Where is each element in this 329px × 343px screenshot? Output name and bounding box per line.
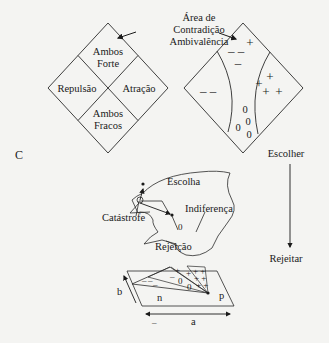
symbol-zero-1: 0 [242,104,247,115]
quadrant-bottom-line1: Ambos [93,108,123,119]
axis-b-label: b [117,286,122,297]
choice-point-dot [141,182,144,185]
region-p-label: p [219,290,224,301]
quadrant-top-line1: Ambos [93,46,123,57]
symbol-right-plus-4: + [275,84,282,99]
panel-label-c: C [15,148,23,162]
quadrant-right-label: Atração [122,83,155,94]
ambivalence-label-line2: Contradição [173,24,224,35]
symbol-right-plus-3: + [262,84,269,99]
label-catastrofe: Catástrofe [102,212,145,223]
symbol-right-plus-1: + [266,69,273,84]
plane-plus-1: + [175,265,180,275]
label-small-zero: 0 [178,222,183,232]
symbol-zero-4: 0 [246,129,251,140]
cusp-catastrophe-surface: Escolha Indiferença Catástrofe Rejeição … [102,171,234,255]
axis-a-label: a [191,316,196,327]
ambivalence-label-line3: Ambivalência [170,36,229,47]
axis-b-arrow [124,276,136,303]
axis-a-minus: – [151,317,157,327]
decision-bottom-label: Rejeitar [269,253,303,264]
figure-canvas: Ambos Forte Repulsão Atração Ambos Fraco… [0,0,329,343]
quadrant-top-line2: Forte [97,58,120,69]
label-rejeicao: Rejeição [155,241,192,252]
symbol-zero-3: 0 [235,122,240,133]
decision-axis: Escolher Rejeitar [268,148,305,264]
quadrant-bottom-line2: Fracos [94,120,122,131]
plane-minus-3: – [152,279,158,289]
plane-zero-2: 0 [187,282,192,292]
left-diamond-pointer-arrow [118,32,136,38]
symbol-zero-2: 0 [245,116,250,127]
plane-plus-grid-3: + + [196,280,208,290]
plane-minus-1: – [141,275,147,285]
symbol-left-minus-pair: – – [199,83,217,98]
plane-plus-2: + [186,268,191,278]
rejection-point-dot [170,213,173,216]
symbol-top-plus: + [246,35,253,50]
plane-zero-1: 0 [178,276,183,286]
indifference-pointer-line [196,212,205,232]
region-n-label: n [157,292,163,303]
control-plane: – – – – + + 0 0 + + + + + + n p b a – [117,265,234,327]
ambivalence-label-line1: Área de [183,12,216,23]
label-indiferenca: Indiferença [185,203,233,214]
label-escolha: Escolha [167,176,201,187]
symbol-upper-minus-single: – [234,55,242,70]
right-diamond-left-arc [217,51,232,132]
quadrant-left-label: Repulsão [57,83,96,94]
decision-top-label: Escolher [268,148,305,159]
diagram-svg: Ambos Forte Repulsão Atração Ambos Fraco… [0,0,329,343]
cusp-point-dot [206,291,209,294]
interaction-diamond: Ambos Forte Repulsão Atração Ambos Fraco… [48,23,168,153]
